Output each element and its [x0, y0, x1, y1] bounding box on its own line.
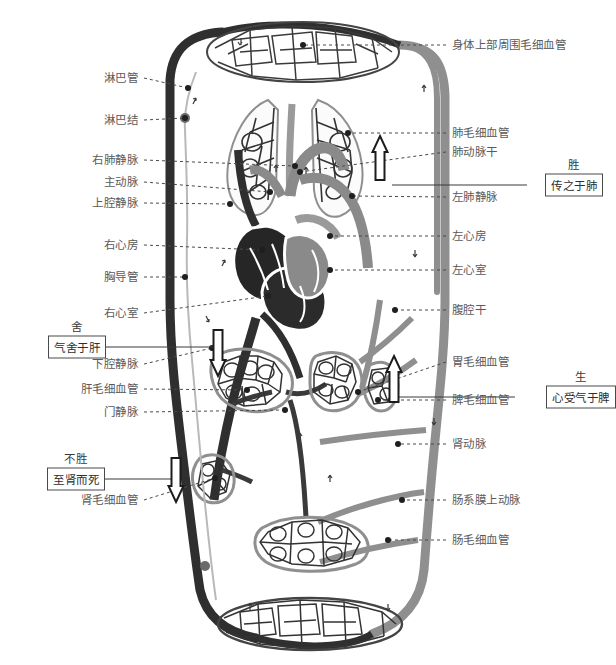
label-left-2: 右肺静脉	[0, 154, 138, 167]
label-left-8: 下腔静脉	[0, 358, 138, 371]
annotation-box-sheng2[interactable]: 心受气于脾	[546, 386, 616, 409]
annotation-sheng[interactable]: 胜传之于肺	[545, 156, 603, 197]
annotation-busheng[interactable]: 不胜至肾而死	[47, 450, 105, 491]
arrow-spleen	[387, 356, 402, 402]
annotation-caption-she: 舍	[48, 318, 106, 334]
label-right-8: 脾毛细血管	[452, 394, 509, 407]
label-right-5: 左心室	[452, 264, 486, 277]
label-right-0: 身体上部周围毛细血管	[452, 39, 566, 52]
organ-intestine	[255, 517, 368, 571]
label-right-3: 左肺静脉	[452, 191, 498, 204]
label-left-5: 右心房	[0, 239, 138, 252]
label-right-6: 腹腔干	[452, 304, 486, 317]
arrow-lung	[373, 136, 388, 180]
aortic-branches	[318, 300, 426, 562]
label-left-9: 肝毛细血管	[0, 383, 138, 396]
annotation-caption-sheng2: 生	[546, 368, 616, 384]
label-left-1: 淋巴结	[0, 114, 138, 127]
organ-stomach	[310, 352, 362, 410]
annotation-box-busheng[interactable]: 至肾而死	[47, 468, 105, 491]
lymphatic-system	[180, 72, 216, 600]
label-right-2: 肺动脉干	[452, 146, 498, 159]
annotation-sheng2[interactable]: 生心受气于脾	[546, 368, 616, 409]
label-right-1: 肺毛细血管	[452, 127, 509, 140]
label-right-4: 左心房	[452, 230, 486, 243]
annotation-caption-busheng: 不胜	[47, 450, 105, 466]
annotation-she[interactable]: 舍气舍于肝	[48, 318, 106, 359]
label-right-7: 胃毛细血管	[452, 356, 509, 369]
label-left-3: 主动脉	[0, 176, 138, 189]
arrow-kidney	[169, 458, 184, 502]
annotation-box-sheng[interactable]: 传之于肺	[545, 174, 603, 197]
label-right-9: 肾动脉	[452, 438, 486, 451]
label-left-11: 肾毛细血管	[0, 494, 138, 507]
arrow-liver	[211, 330, 226, 376]
label-left-10: 门静脉	[0, 406, 138, 419]
annotation-box-she[interactable]: 气舍于肝	[48, 336, 106, 359]
organ-heart	[234, 218, 338, 330]
annotation-caption-sheng: 胜	[545, 156, 603, 172]
label-right-10: 肠系膜上动脉	[452, 494, 520, 507]
label-left-0: 淋巴管	[0, 72, 138, 85]
organ-upper-capillaries	[207, 22, 399, 82]
label-left-4: 上腔静脉	[0, 197, 138, 210]
organ-lower-capillaries	[218, 598, 402, 650]
label-right-11: 肠毛细血管	[452, 534, 509, 547]
portal-system	[222, 384, 326, 518]
label-left-6: 胸导管	[0, 271, 138, 284]
